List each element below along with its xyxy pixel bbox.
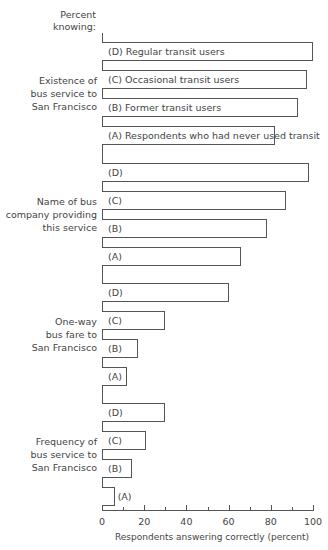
bar-b <box>102 219 267 238</box>
minor-tick <box>165 507 166 511</box>
bar-label-c: (C) <box>108 191 122 210</box>
bar-label-a: (A) <box>108 247 122 266</box>
bar-label-c: (C) <box>108 431 122 450</box>
category-label: Name of buscompany providingthis service <box>6 195 97 234</box>
minor-tick <box>292 507 293 511</box>
category-label-line: San Francisco <box>32 341 97 354</box>
category-label-line: company providing <box>6 208 97 221</box>
x-axis-title: Respondents answering correctly (percent… <box>102 532 322 542</box>
bar-label-d: (D) <box>108 283 123 302</box>
bar-label-c: (C) <box>108 311 122 330</box>
bar-label-d: (D) <box>108 163 123 182</box>
bar-label-b: (B) <box>108 459 122 478</box>
x-tick-label: 80 <box>265 516 277 527</box>
x-tick-label: 60 <box>223 516 235 527</box>
major-tick <box>229 505 230 511</box>
x-tick-label: 20 <box>138 516 150 527</box>
category-label-line: Existence of <box>30 74 97 87</box>
bar-label-c: (C) Occasional transit users <box>108 70 239 89</box>
y-axis-header: Percent knowing: <box>53 9 96 33</box>
bar-label-a: (A) Respondents who had never used trans… <box>108 126 320 145</box>
category-label-line: San Francisco <box>30 461 97 474</box>
bar-label-a: (A) <box>118 487 132 506</box>
category-label-line: Frequency of <box>30 435 97 448</box>
x-tick-label: 0 <box>99 516 105 527</box>
bar-a <box>102 247 241 266</box>
category-label-line: One-way <box>32 315 97 328</box>
x-tick-label: 100 <box>304 516 322 527</box>
bar-label-a: (A) <box>108 367 122 386</box>
category-label-line: bus fare to <box>32 328 97 341</box>
header-line-1: Percent <box>53 9 96 21</box>
category-label-line: bus service to <box>30 87 97 100</box>
bar-label-d: (D) <box>108 403 123 422</box>
category-label-line: Name of bus <box>6 195 97 208</box>
major-tick <box>144 505 145 511</box>
bar-a <box>102 487 115 506</box>
bar-chart: Percent knowing: 020406080100 Respondent… <box>0 0 328 550</box>
minor-tick <box>208 507 209 511</box>
bar-label-d: (D) Regular transit users <box>108 42 225 61</box>
minor-tick <box>123 507 124 511</box>
category-label-line: this service <box>6 221 97 234</box>
category-label: Frequency ofbus service toSan Francisco <box>30 435 97 474</box>
major-tick <box>186 505 187 511</box>
bar-c <box>102 191 286 210</box>
category-label-line: bus service to <box>30 448 97 461</box>
bar-d <box>102 163 309 182</box>
bar-label-b: (B) <box>108 339 122 358</box>
minor-tick <box>250 507 251 511</box>
header-line-2: knowing: <box>53 21 96 33</box>
bar-label-b: (B) <box>108 219 122 238</box>
category-label-line: San Francisco <box>30 100 97 113</box>
major-tick <box>271 505 272 511</box>
bar-label-b: (B) Former transit users <box>108 98 221 117</box>
x-tick-label: 40 <box>180 516 192 527</box>
category-label: One-waybus fare toSan Francisco <box>32 315 97 354</box>
category-label: Existence ofbus service toSan Francisco <box>30 74 97 113</box>
major-tick <box>313 505 314 511</box>
